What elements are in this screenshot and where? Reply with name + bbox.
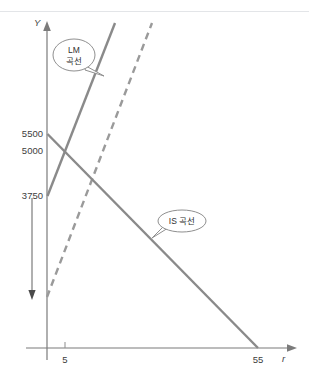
lm-callout-line1: LM — [68, 45, 80, 55]
is-curve — [48, 134, 259, 348]
y-axis-label: Y — [34, 17, 41, 28]
y-tick-label-5000: 5000 — [22, 145, 43, 156]
lm-callout-bubble — [53, 39, 95, 71]
shift-arrow-head — [28, 290, 35, 300]
is-callout-line1: IS 곡선 — [169, 216, 195, 226]
y-axis-arrowhead — [43, 21, 51, 31]
is-lm-diagram: Y r 5500 5000 3750 5 55 LM 곡선 IS 곡선 — [0, 0, 309, 388]
figure-page: Y r 5500 5000 3750 5 55 LM 곡선 IS 곡선 — [0, 0, 309, 388]
y-tick-label-3750: 3750 — [22, 190, 43, 201]
x-tick-label-5: 5 — [62, 354, 67, 365]
y-tick-label-5500: 5500 — [22, 128, 43, 139]
x-tick-label-55: 55 — [253, 354, 264, 365]
lm-callout-line2: 곡선 — [66, 56, 82, 66]
x-axis-label: r — [282, 353, 286, 364]
is-callout: IS 곡선 — [152, 210, 206, 238]
x-axis-arrowhead — [287, 344, 297, 352]
